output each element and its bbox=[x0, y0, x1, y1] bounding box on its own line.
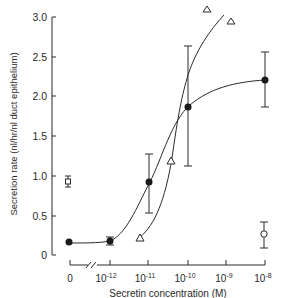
y-tick-label: 1.5 bbox=[32, 130, 47, 142]
x-tick-label: 10-8 bbox=[254, 272, 271, 284]
x-tick-label: 10-11 bbox=[135, 272, 156, 284]
data-point bbox=[227, 18, 235, 24]
y-axis-label: Secretion rate (nl/hr/nl duct epithelium… bbox=[8, 52, 19, 215]
triangle-fit-curve bbox=[140, 15, 224, 237]
y-tick-label: 0 bbox=[41, 249, 47, 261]
axis-break-mark bbox=[91, 262, 96, 268]
data-point bbox=[107, 238, 114, 245]
x-tick-labels: 0 10-12 10-11 10-10 10-9 10-8 bbox=[67, 272, 272, 284]
y-tick-label: 1.0 bbox=[32, 170, 47, 182]
x-tick-label: 10-9 bbox=[215, 272, 232, 284]
x-axis-label: Secretin concentration (M) bbox=[109, 288, 226, 298]
secretion-dose-response-chart: 0 0.5 1.0 1.5 2.0 2.5 3.0 Secretion rate… bbox=[0, 0, 283, 298]
open-circle-marker bbox=[261, 231, 267, 237]
open-triangle-markers bbox=[136, 6, 235, 241]
y-tick-label: 2.0 bbox=[32, 90, 47, 102]
y-tick-label: 2.5 bbox=[32, 51, 47, 63]
open-square-marker bbox=[66, 179, 71, 184]
filled-circle-markers bbox=[66, 77, 269, 246]
error-bars bbox=[65, 46, 269, 248]
x-tick-label: 10-10 bbox=[174, 272, 195, 284]
y-tick-labels: 0 0.5 1.0 1.5 2.0 2.5 3.0 bbox=[32, 11, 47, 261]
data-point bbox=[262, 77, 269, 84]
data-point bbox=[167, 157, 175, 164]
data-point bbox=[146, 179, 153, 186]
x-axis bbox=[70, 260, 265, 268]
y-tick-label: 3.0 bbox=[32, 11, 47, 23]
y-tick-label: 0.5 bbox=[32, 210, 47, 222]
data-point bbox=[203, 6, 211, 12]
y-axis bbox=[52, 17, 56, 255]
data-point bbox=[185, 104, 192, 111]
filled-circle-fit-curve bbox=[68, 80, 265, 243]
data-point bbox=[66, 239, 73, 246]
x-tick-label: 0 bbox=[67, 273, 73, 284]
x-tick-label: 10-12 bbox=[95, 272, 116, 284]
